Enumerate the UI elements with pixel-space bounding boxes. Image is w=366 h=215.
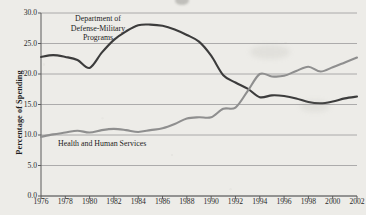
annotation-dod-label: Department of Defense-Military Programs xyxy=(50,14,146,43)
x-tick-label: 1978 xyxy=(52,198,78,206)
x-tick-label: 1982 xyxy=(101,198,127,206)
x-tick-label: 1980 xyxy=(77,198,103,206)
annotation-hhs-label: Health and Human Services xyxy=(58,139,198,149)
chart-container: Percentage of Spending 0.05.010.015.020.… xyxy=(0,0,366,215)
x-tick-label: 1986 xyxy=(150,198,176,206)
x-tick-label: 1988 xyxy=(174,198,200,206)
x-tick-label: 1992 xyxy=(222,198,248,206)
x-tick-label: 2002 xyxy=(344,198,366,206)
x-tick-label: 2000 xyxy=(320,198,346,206)
x-tick-label: 1998 xyxy=(295,198,321,206)
series-line xyxy=(41,58,357,137)
x-tick-label: 1990 xyxy=(198,198,224,206)
x-tick-label: 1984 xyxy=(125,198,151,206)
x-tick-label: 1976 xyxy=(28,198,54,206)
x-tick-label: 1996 xyxy=(271,198,297,206)
x-tick-label: 1994 xyxy=(247,198,273,206)
